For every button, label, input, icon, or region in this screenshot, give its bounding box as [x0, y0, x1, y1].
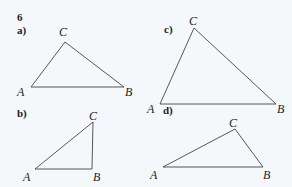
- exercise-figure: 6 a)ABCb)ABCc)ABCd)ABC: [0, 0, 292, 187]
- vertex-label-b: B: [277, 102, 285, 116]
- vertex-label-b: B: [125, 85, 133, 99]
- vertex-label-c: C: [89, 109, 98, 123]
- vertex-label-b: B: [93, 170, 101, 184]
- triangle-part-d: d)ABC: [149, 104, 271, 182]
- vertex-label-a: A: [22, 170, 31, 184]
- part-label-b: b): [17, 107, 27, 120]
- triangle-part-b: b)ABC: [17, 107, 101, 184]
- vertex-label-a: A: [146, 102, 155, 116]
- triangle-abc-a: [31, 42, 124, 87]
- triangle-abc-b: [35, 122, 93, 169]
- part-label-d: d): [163, 104, 173, 117]
- triangle-abc-d: [163, 129, 263, 167]
- part-label-c: c): [164, 23, 173, 36]
- triangle-abc-c: [160, 28, 276, 104]
- vertex-label-c: C: [229, 116, 238, 130]
- exercise-number: 6: [17, 11, 23, 23]
- part-label-a: a): [17, 24, 27, 37]
- triangles-diagram: 6 a)ABCb)ABCc)ABCd)ABC: [0, 0, 292, 187]
- vertex-label-c: C: [59, 25, 68, 39]
- vertex-label-a: A: [16, 85, 25, 99]
- triangle-part-c: c)ABC: [146, 14, 285, 116]
- vertex-label-a: A: [149, 168, 158, 182]
- triangle-part-a: a)ABC: [16, 24, 133, 99]
- vertex-label-c: C: [189, 14, 198, 28]
- vertex-label-b: B: [263, 168, 271, 182]
